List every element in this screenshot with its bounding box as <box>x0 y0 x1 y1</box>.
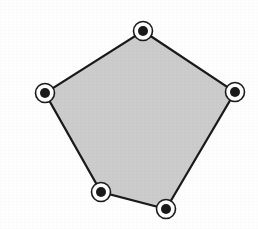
vertex-marker-bottom-left[interactable] <box>92 183 111 202</box>
vertex-marker-left[interactable] <box>36 84 55 103</box>
vertex-bottom-left-dot <box>96 187 106 197</box>
polygon-figure-svg <box>0 0 258 229</box>
vertex-top-dot <box>138 26 148 36</box>
vertex-marker-bottom-right[interactable] <box>157 200 176 219</box>
figure-canvas <box>0 0 258 229</box>
vertex-marker-right[interactable] <box>226 83 245 102</box>
vertex-bottom-right-dot <box>161 204 171 214</box>
vertex-right-dot <box>230 87 240 97</box>
vertex-left-dot <box>40 88 50 98</box>
vertex-marker-top[interactable] <box>134 22 153 41</box>
